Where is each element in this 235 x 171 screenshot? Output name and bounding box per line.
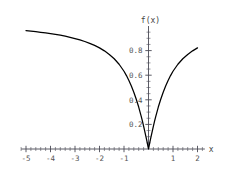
- y-axis-title: f(x): [141, 16, 160, 25]
- y-tick-label: 0.8: [129, 46, 143, 55]
- x-tick-label: -2: [95, 154, 104, 163]
- x-tick-label: 1: [171, 154, 176, 163]
- plot-canvas: -5-4-3-2-112 0.20.40.60.8 f(x) x: [0, 0, 235, 171]
- x-axis-title: x: [209, 145, 214, 154]
- x-tick-label: -4: [46, 154, 56, 163]
- y-tick-label: 0.2: [129, 120, 143, 129]
- function-curve: [26, 31, 198, 149]
- x-tick-label: -5: [21, 154, 30, 163]
- x-tick-label: -1: [119, 154, 128, 163]
- function-plot: -5-4-3-2-112 0.20.40.60.8 f(x) x: [0, 0, 235, 171]
- x-tick-labels: -5-4-3-2-112: [21, 154, 199, 163]
- y-tick-label: 0.6: [129, 71, 143, 80]
- x-tick-label: 2: [195, 154, 200, 163]
- x-tick-label: -3: [70, 154, 79, 163]
